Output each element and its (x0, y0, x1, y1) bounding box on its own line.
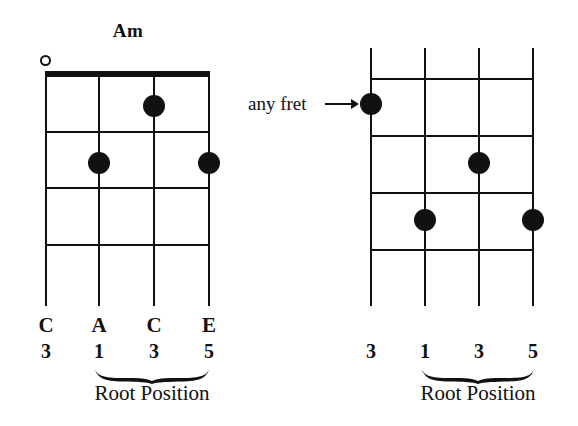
arrow-right-icon (325, 97, 359, 111)
right-chord-diagram: any fret 3 1 3 5 (0, 0, 578, 426)
finger-dot (522, 209, 544, 231)
string-3 (478, 48, 480, 306)
scale-degree-label: 3 (356, 340, 386, 363)
scale-degree-label: 5 (518, 340, 548, 363)
fret-line-2 (370, 135, 534, 137)
root-position-caption: Root Position (378, 381, 578, 406)
string-4 (532, 48, 534, 306)
fret-line-4 (370, 249, 534, 251)
scale-degree-label: 1 (410, 340, 440, 363)
string-2 (424, 48, 426, 306)
finger-dot (360, 93, 382, 115)
chord-diagram-figure: Am C A C E 3 1 3 5 Root Pos (0, 0, 578, 426)
scale-degree-label: 3 (464, 340, 494, 363)
fret-line-3 (370, 192, 534, 194)
finger-dot (468, 152, 490, 174)
any-fret-annotation: any fret (248, 93, 307, 115)
finger-dot (414, 209, 436, 231)
string-1 (370, 48, 372, 306)
fret-line-1 (370, 78, 534, 80)
